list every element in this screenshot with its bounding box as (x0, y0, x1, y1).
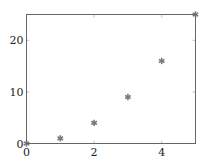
scatter-chart: 02401020 (0, 0, 206, 160)
y-tick-label: 0 (17, 138, 24, 151)
x-tick-label: 2 (91, 146, 98, 159)
y-tick-label: 10 (10, 86, 24, 99)
y-tick-label: 20 (10, 34, 24, 47)
asterisk-marker (58, 135, 64, 141)
x-tick-label: 0 (23, 146, 30, 159)
plot-frame (27, 15, 196, 144)
asterisk-marker (159, 58, 165, 64)
asterisk-marker (125, 94, 131, 100)
x-tick-label: 4 (158, 146, 165, 159)
asterisk-marker (91, 120, 97, 126)
tick-labels: 02401020 (10, 34, 166, 158)
tick-marks (27, 15, 196, 144)
data-points (24, 11, 199, 146)
